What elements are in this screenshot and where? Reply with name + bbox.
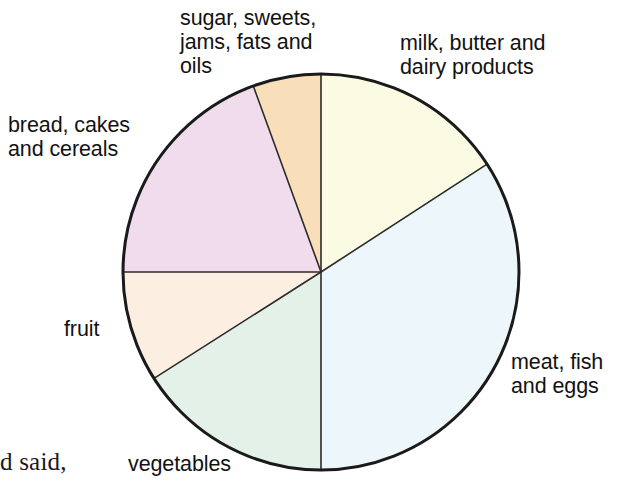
slice-label-bread-cakes-cereals: bread, cakes and cereals [8,113,198,161]
slice-label-vegetables: vegetables [128,452,308,476]
food-groups-pie-chart: sugar, sweets, jams, fats and oils milk,… [0,0,641,493]
slice-label-fruit: fruit [64,317,174,341]
slice-label-meat-fish-eggs: meat, fish and eggs [511,350,641,398]
pie-chart-page: sugar, sweets, jams, fats and oils milk,… [0,0,641,493]
slice-label-sugar-sweets-jams-fats-oils: sugar, sweets, jams, fats and oils [180,6,390,78]
page-margin-body-text: d said, [0,448,67,476]
slice-label-milk-butter-dairy: milk, butter and dairy products [400,31,630,79]
